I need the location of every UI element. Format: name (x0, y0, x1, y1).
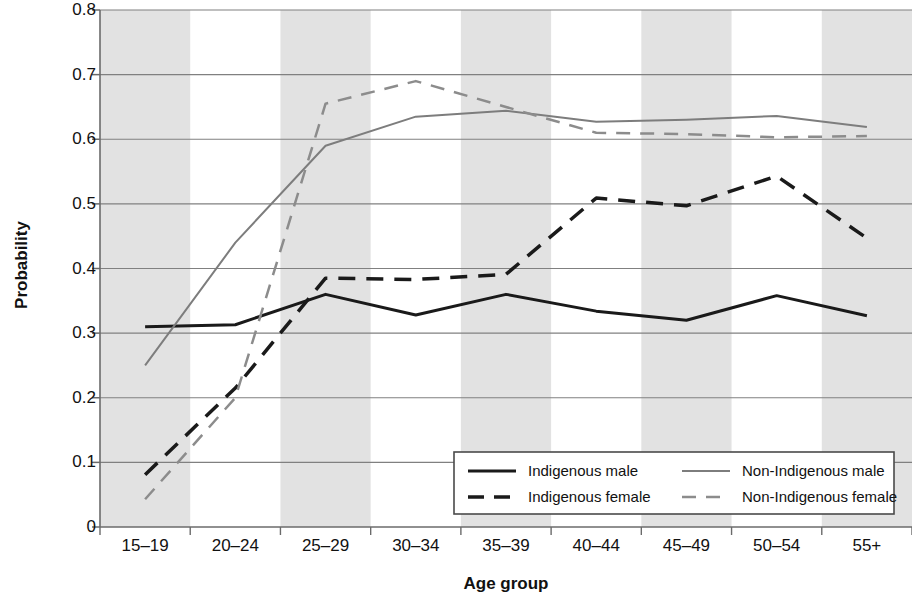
x-tick-label: 25–29 (302, 536, 349, 556)
y-tick-label: 0.4 (34, 259, 96, 279)
chart-legend: Indigenous maleIndigenous femaleNon-Indi… (454, 452, 897, 514)
legend-label: Indigenous female (528, 488, 651, 505)
x-tick-label: 20–24 (212, 536, 259, 556)
x-tick-label: 40–44 (573, 536, 620, 556)
y-tick-label: 0.7 (34, 65, 96, 85)
x-axis-tick-marks (100, 527, 912, 535)
y-tick-label: 0.8 (34, 0, 96, 20)
chart-plot-area: Indigenous maleIndigenous femaleNon-Indi… (0, 0, 912, 608)
x-axis-tick-labels: 15–1920–2425–2930–3435–3940–4445–4950–54… (100, 536, 912, 564)
y-axis-tick-labels: 00.10.20.30.40.50.60.70.8 (34, 0, 96, 540)
x-tick-label: 55+ (852, 536, 881, 556)
legend-label: Indigenous male (528, 462, 638, 479)
legend-label: Non-Indigenous male (742, 462, 885, 479)
x-tick-label: 35–39 (482, 536, 529, 556)
x-tick-label: 50–54 (753, 536, 800, 556)
y-tick-label: 0.1 (34, 452, 96, 472)
legend-label: Non-Indigenous female (742, 488, 897, 505)
x-axis-label: Age group (100, 574, 912, 594)
y-axis-label: Probability (12, 221, 32, 309)
y-tick-label: 0.5 (34, 194, 96, 214)
y-tick-label: 0 (34, 517, 96, 537)
chart-figure: Probability 00.10.20.30.40.50.60.70.8 In… (0, 0, 912, 608)
y-tick-label: 0.2 (34, 388, 96, 408)
y-tick-label: 0.6 (34, 129, 96, 149)
x-tick-label: 15–19 (121, 536, 168, 556)
x-tick-label: 45–49 (663, 536, 710, 556)
y-tick-label: 0.3 (34, 323, 96, 343)
x-tick-label: 30–34 (392, 536, 439, 556)
